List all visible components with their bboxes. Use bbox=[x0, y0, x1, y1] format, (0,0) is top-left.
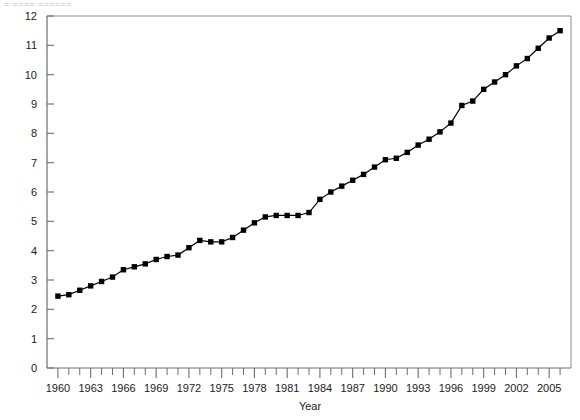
x-tick-label: 1966 bbox=[111, 382, 135, 394]
x-tick-label: 1972 bbox=[177, 382, 201, 394]
data-point-marker bbox=[252, 220, 257, 225]
data-point-marker bbox=[470, 98, 475, 103]
data-point-marker bbox=[284, 213, 289, 218]
y-tick-label: 4 bbox=[31, 245, 37, 257]
series-line bbox=[58, 31, 560, 296]
data-point-marker bbox=[263, 214, 268, 219]
data-point-marker bbox=[394, 156, 399, 161]
data-point-marker bbox=[99, 279, 104, 284]
x-tick-label: 1978 bbox=[242, 382, 266, 394]
y-tick-label: 1 bbox=[31, 333, 37, 345]
data-point-marker bbox=[481, 87, 486, 92]
data-point-marker bbox=[274, 213, 279, 218]
x-tick-label: 1987 bbox=[340, 382, 364, 394]
data-point-marker bbox=[546, 35, 551, 40]
data-point-marker bbox=[426, 137, 431, 142]
data-point-marker bbox=[437, 129, 442, 134]
y-tick-label: 5 bbox=[31, 215, 37, 227]
data-point-marker bbox=[361, 172, 366, 177]
data-point-marker bbox=[306, 210, 311, 215]
data-point-marker bbox=[110, 274, 115, 279]
data-point-marker bbox=[143, 261, 148, 266]
y-tick-label: 2 bbox=[31, 303, 37, 315]
y-tick-label: 0 bbox=[31, 362, 37, 374]
data-point-marker bbox=[295, 213, 300, 218]
y-tick-label: 8 bbox=[31, 127, 37, 139]
y-tick-label: 11 bbox=[26, 39, 37, 51]
data-point-marker bbox=[132, 264, 137, 269]
data-point-marker bbox=[317, 197, 322, 202]
data-point-marker bbox=[383, 157, 388, 162]
x-axis-title: Year bbox=[299, 400, 322, 412]
line-chart: 0123456789101112 19601963196619691972197… bbox=[0, 0, 580, 420]
data-point-marker bbox=[55, 293, 60, 298]
x-tick-label: 2005 bbox=[537, 382, 561, 394]
data-point-marker bbox=[328, 189, 333, 194]
data-point-marker bbox=[77, 288, 82, 293]
x-tick-label: 1981 bbox=[275, 382, 299, 394]
data-point-marker bbox=[153, 257, 158, 262]
x-tick-label: 1960 bbox=[46, 382, 70, 394]
data-point-marker bbox=[415, 142, 420, 147]
x-tick-label: 1984 bbox=[308, 382, 332, 394]
y-tick-label: 3 bbox=[31, 274, 37, 286]
y-tick-label: 10 bbox=[25, 69, 37, 81]
y-tick-label: 9 bbox=[31, 98, 37, 110]
data-point-marker bbox=[164, 254, 169, 259]
data-point-marker bbox=[514, 63, 519, 68]
data-point-marker bbox=[503, 72, 508, 77]
x-tick-label: 1999 bbox=[471, 382, 495, 394]
chart-container: = ==== ====== 0123456789101112 196019631… bbox=[0, 0, 580, 420]
data-point-marker bbox=[241, 227, 246, 232]
data-point-marker bbox=[492, 79, 497, 84]
data-point-marker bbox=[339, 183, 344, 188]
x-tick-label: 1963 bbox=[78, 382, 102, 394]
data-point-marker bbox=[536, 46, 541, 51]
data-point-marker bbox=[121, 267, 126, 272]
x-tick-label: 2002 bbox=[504, 382, 528, 394]
data-point-marker bbox=[230, 235, 235, 240]
data-point-marker bbox=[525, 56, 530, 61]
data-point-marker bbox=[208, 239, 213, 244]
plot-frame bbox=[47, 16, 571, 368]
frame-border bbox=[47, 16, 571, 368]
data-point-marker bbox=[372, 164, 377, 169]
data-point-marker bbox=[350, 178, 355, 183]
data-point-marker bbox=[405, 150, 410, 155]
y-tick-label: 7 bbox=[31, 157, 37, 169]
x-tick-label: 1996 bbox=[439, 382, 463, 394]
data-point-marker bbox=[175, 252, 180, 257]
x-tick-label: 1993 bbox=[406, 382, 430, 394]
data-point-marker bbox=[219, 239, 224, 244]
y-tick-label: 12 bbox=[25, 10, 37, 22]
data-point-marker bbox=[186, 245, 191, 250]
data-point-marker bbox=[459, 103, 464, 108]
x-tick-label: 1969 bbox=[144, 382, 168, 394]
data-point-marker bbox=[66, 292, 71, 297]
x-tick-label: 1990 bbox=[373, 382, 397, 394]
data-point-marker bbox=[197, 238, 202, 243]
x-axis: 1960196319661969197219751978198119841987… bbox=[46, 368, 571, 394]
data-point-marker bbox=[88, 283, 93, 288]
y-tick-label: 6 bbox=[31, 186, 37, 198]
y-axis: 0123456789101112 bbox=[25, 10, 54, 374]
data-point-marker bbox=[448, 120, 453, 125]
data-point-marker bbox=[557, 28, 562, 33]
data-series bbox=[55, 28, 563, 299]
x-tick-label: 1975 bbox=[209, 382, 233, 394]
